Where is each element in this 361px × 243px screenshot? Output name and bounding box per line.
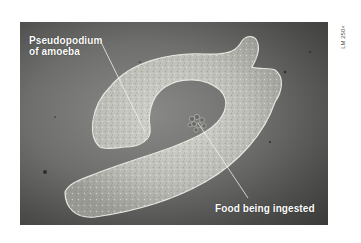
food-particle-cluster [188, 114, 206, 132]
food-label: Food being ingested [215, 203, 315, 214]
magnification-label: LM 250× [332, 27, 354, 47]
pseudopodium-label: Pseudopodium of amoeba [29, 35, 109, 57]
pseudopodium-label-line1: Pseudopodium [29, 35, 109, 46]
pseudopodium-label-line2: of amoeba [29, 46, 109, 57]
